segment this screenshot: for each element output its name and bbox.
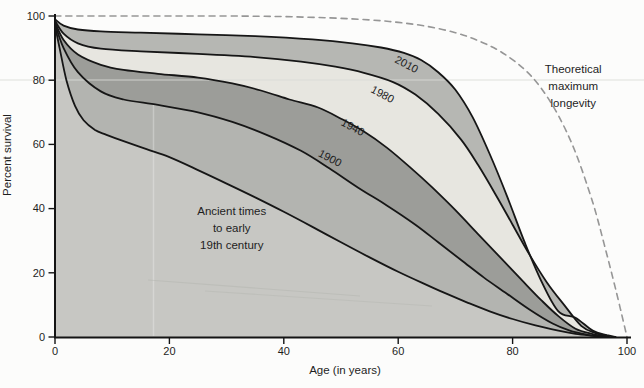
y-tick-label: 80 — [33, 74, 45, 86]
annotation-theoretical-maximum-longevity: Theoreticalmaximumlongevity — [545, 63, 602, 109]
survival-chart: 020406080100020406080100Age (in years)Pe… — [0, 0, 644, 388]
y-axis-title: Percent survival — [1, 114, 13, 196]
y-tick-label: 100 — [27, 10, 45, 22]
survival-chart-figure: 020406080100020406080100Age (in years)Pe… — [0, 0, 644, 388]
x-axis-title: Age (in years) — [309, 364, 381, 376]
x-tick-label: 60 — [392, 345, 404, 357]
x-tick-label: 80 — [506, 345, 518, 357]
x-tick-label: 0 — [52, 345, 58, 357]
x-tick-label: 100 — [618, 345, 636, 357]
y-tick-label: 0 — [39, 331, 45, 343]
y-tick-label: 20 — [33, 267, 45, 279]
y-tick-label: 40 — [33, 202, 45, 214]
x-tick-label: 40 — [278, 345, 290, 357]
x-tick-label: 20 — [163, 345, 175, 357]
y-tick-label: 60 — [33, 138, 45, 150]
